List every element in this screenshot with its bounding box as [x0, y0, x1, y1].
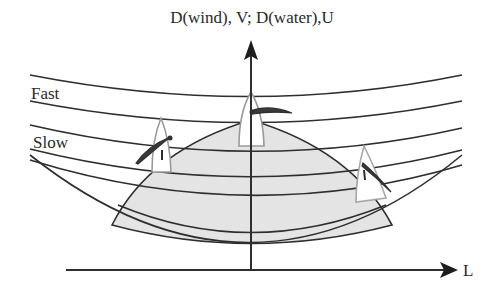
wind-curve-1 — [30, 75, 462, 97]
diagram-canvas — [0, 0, 496, 292]
boat-keel-icon — [364, 170, 365, 180]
slow-curve-label: Slow — [33, 134, 68, 151]
sail-icon — [251, 108, 292, 114]
x-axis-label: L — [463, 262, 473, 279]
figure-title: D(wind), V; D(water),U — [0, 9, 496, 26]
fast-curve-label: Fast — [31, 85, 59, 102]
sailboat-right — [356, 146, 391, 202]
